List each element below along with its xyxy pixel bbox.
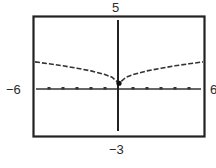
ymax-label: 5 bbox=[112, 1, 119, 14]
x-tick bbox=[76, 87, 79, 90]
xmin-label: −6 bbox=[6, 83, 21, 96]
x-tick bbox=[90, 87, 93, 90]
minimum-point bbox=[116, 81, 121, 86]
ymin-label: −3 bbox=[109, 143, 124, 156]
x-tick bbox=[132, 87, 135, 90]
x-tick bbox=[174, 87, 177, 90]
x-tick bbox=[104, 87, 107, 90]
x-tick bbox=[146, 87, 149, 90]
xmax-label: 6 bbox=[210, 83, 216, 96]
x-tick bbox=[188, 87, 191, 90]
x-tick bbox=[48, 87, 51, 90]
x-tick bbox=[160, 87, 163, 90]
graph-window bbox=[0, 0, 216, 168]
x-tick bbox=[62, 87, 65, 90]
